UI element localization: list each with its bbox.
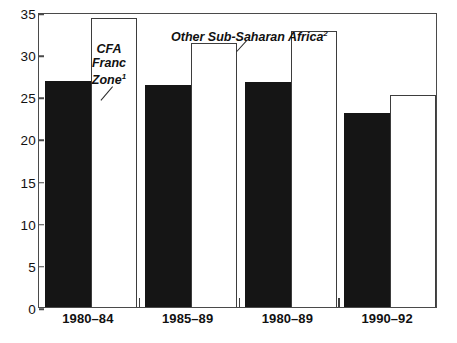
annotation-cfa-footnote: 1 bbox=[122, 72, 126, 81]
y-tick-label-30: 30 bbox=[21, 49, 36, 64]
y-tick-label-20: 20 bbox=[21, 133, 36, 148]
y-tick-mark-35 bbox=[39, 13, 44, 15]
bar-series-1-group-3 bbox=[390, 95, 436, 307]
x-axis-label-0: 1980–84 bbox=[62, 311, 113, 326]
y-tick-mark-20 bbox=[39, 140, 44, 142]
x-axis-label-1: 1985–89 bbox=[162, 311, 213, 326]
y-tick-mark-25 bbox=[39, 98, 44, 100]
annotation-cfa-line3-wrap: Zone1 bbox=[83, 70, 135, 88]
bar-series-0-group-1 bbox=[145, 85, 191, 307]
x-axis-label-3: 1990–92 bbox=[361, 311, 412, 326]
y-tick-mark-5 bbox=[39, 266, 44, 268]
annotation-other-sub-saharan-africa: Other Sub-Saharan Africa2 bbox=[171, 27, 328, 45]
x-axis-label-2: 1980–89 bbox=[262, 311, 313, 326]
annotation-cfa-line1: CFA bbox=[83, 43, 135, 57]
bar-series-0-group-0 bbox=[45, 81, 91, 307]
y-tick-label-35: 35 bbox=[21, 7, 36, 22]
y-tick-label-25: 25 bbox=[21, 91, 36, 106]
y-tick-mark-30 bbox=[39, 55, 44, 57]
annotation-cfa-line3: Zone bbox=[92, 73, 122, 87]
y-tick-mark-0 bbox=[39, 308, 44, 310]
annotation-other-text: Other Sub-Saharan Africa bbox=[171, 30, 323, 44]
y-tick-label-0: 0 bbox=[28, 302, 36, 317]
bar-series-1-group-2 bbox=[291, 31, 337, 307]
x-axis-separator-1 bbox=[139, 298, 141, 307]
y-tick-mark-10 bbox=[39, 224, 44, 226]
plot-area: 05101520253035 CFA Franc Zone1 Other Sub… bbox=[38, 13, 437, 308]
x-axis-separator-3 bbox=[338, 298, 340, 307]
chart-figure: 05101520253035 CFA Franc Zone1 Other Sub… bbox=[0, 0, 457, 343]
bar-series-0-group-3 bbox=[344, 113, 390, 307]
y-tick-label-10: 10 bbox=[21, 217, 36, 232]
annotation-cfa-franc-zone: CFA Franc Zone1 bbox=[83, 43, 135, 88]
bar-series-0-group-2 bbox=[245, 82, 291, 307]
annotation-cfa-line2: Franc bbox=[83, 57, 135, 71]
bar-series-1-group-1 bbox=[191, 43, 237, 307]
y-tick-mark-15 bbox=[39, 182, 44, 184]
y-tick-label-5: 5 bbox=[28, 259, 36, 274]
y-tick-label-15: 15 bbox=[21, 175, 36, 190]
x-axis-separator-2 bbox=[239, 298, 241, 307]
annotation-other-footnote: 2 bbox=[323, 29, 327, 38]
